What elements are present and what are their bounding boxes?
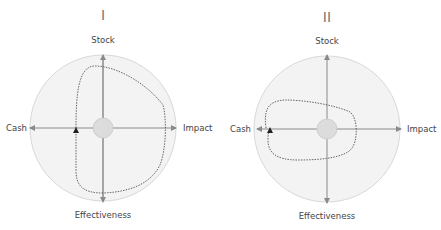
label-stock: Stock — [315, 36, 339, 46]
panel-2: II Stock Effectiveness Cash Impact — [230, 9, 437, 221]
panel-1-title: I — [101, 7, 105, 23]
label-effectiveness: Effectiveness — [75, 210, 132, 220]
panel-2-title: II — [323, 9, 331, 25]
label-cash: Cash — [6, 123, 27, 133]
center-node — [93, 118, 113, 138]
center-node — [317, 119, 337, 139]
diagram-canvas: I Stock Effectiveness Cash Impact II Sto… — [0, 0, 441, 230]
label-impact: Impact — [183, 123, 213, 133]
label-cash: Cash — [230, 124, 251, 134]
label-impact: Impact — [407, 124, 437, 134]
label-stock: Stock — [91, 35, 115, 45]
panel-1: I Stock Effectiveness Cash Impact — [6, 7, 213, 220]
label-effectiveness: Effectiveness — [299, 211, 356, 221]
